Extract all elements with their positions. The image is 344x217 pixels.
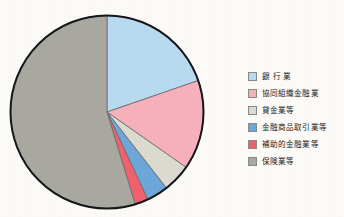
legend-swatch-icon (248, 72, 257, 81)
legend-item[interactable]: 銀 行 業 (248, 68, 340, 85)
pie-chart (7, 12, 207, 212)
legend-item-label: 協同組織金融業 (262, 89, 319, 98)
legend-item[interactable]: 補助的金融業等 (248, 136, 340, 153)
legend-item-label: 補助的金融業等 (262, 140, 319, 149)
legend-item-label: 保険業等 (262, 157, 294, 166)
legend-swatch-icon (248, 106, 257, 115)
chart-legend: 銀 行 業協同組織金融業貸金業等金融商品取引業等補助的金融業等保険業等 (248, 68, 340, 170)
legend-swatch-icon (248, 89, 257, 98)
legend-item-label: 金融商品取引業等 (262, 123, 327, 132)
legend-swatch-icon (248, 157, 257, 166)
chart-page: 銀 行 業協同組織金融業貸金業等金融商品取引業等補助的金融業等保険業等 (0, 0, 344, 217)
legend-swatch-icon (248, 123, 257, 132)
legend-item[interactable]: 金融商品取引業等 (248, 119, 340, 136)
legend-item[interactable]: 協同組織金融業 (248, 85, 340, 102)
pie-chart-svg (7, 12, 207, 212)
legend-swatch-icon (248, 140, 257, 149)
legend-item-label: 貸金業等 (262, 106, 294, 115)
legend-item[interactable]: 保険業等 (248, 153, 340, 170)
legend-item-label: 銀 行 業 (262, 72, 291, 81)
legend-item[interactable]: 貸金業等 (248, 102, 340, 119)
